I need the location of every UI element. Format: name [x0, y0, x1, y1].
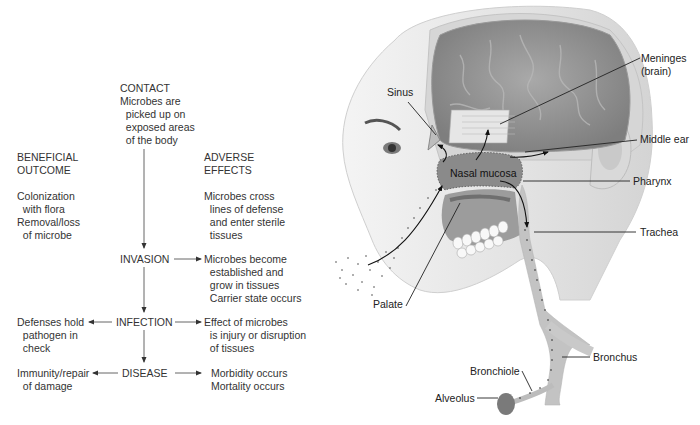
flowchart-arrows [0, 0, 340, 425]
label-bronchiole: Bronchiole [470, 365, 520, 377]
label-middle-ear: Middle ear [640, 133, 689, 145]
label-pharynx: Pharynx [633, 175, 672, 187]
label-bronchus: Bronchus [593, 351, 637, 363]
label-meninges: Meninges [641, 52, 687, 64]
alveolus [497, 393, 515, 415]
meninges-patch [449, 110, 509, 143]
label-trachea: Trachea [640, 226, 678, 238]
label-palate: Palate [373, 298, 403, 310]
label-nasal-mucosa: Nasal mucosa [450, 167, 517, 179]
label-alveolus: Alveolus [435, 392, 475, 404]
label-meninges-sub: (brain) [641, 65, 671, 77]
label-sinus: Sinus [387, 86, 413, 98]
